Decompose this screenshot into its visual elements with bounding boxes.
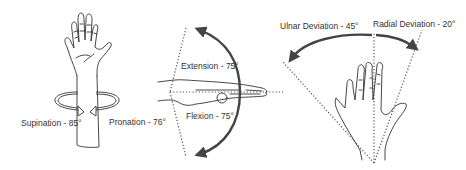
open-palm-hand-icon bbox=[335, 62, 406, 160]
supination-label: Supination - 85° bbox=[21, 118, 82, 128]
flexion-extension-panel bbox=[158, 28, 284, 157]
deviation-guide-lines bbox=[283, 30, 422, 163]
extension-label: Extension - 75° bbox=[181, 61, 239, 71]
range-of-motion-diagram: Supination - 85° Pronation - 76° Extensi… bbox=[0, 0, 466, 170]
ulnar-deviation-label: Ulnar Deviation - 45° bbox=[280, 21, 359, 31]
flexion-label: Flexion - 75° bbox=[186, 111, 234, 121]
deviation-panel bbox=[283, 30, 422, 163]
pronation-label: Pronation - 76° bbox=[109, 117, 166, 127]
radial-deviation-label: Radial Deviation - 20° bbox=[373, 19, 455, 29]
deviation-arrows bbox=[292, 35, 414, 58]
rotation-arrows-icon bbox=[55, 92, 119, 116]
